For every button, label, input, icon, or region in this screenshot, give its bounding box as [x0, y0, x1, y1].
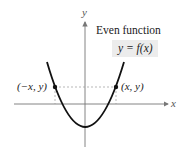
parabola-curve [47, 62, 124, 127]
even-function-figure: Even function y = f(x) (−x, y) (x, y) x … [0, 0, 186, 157]
y-axis-label: y [82, 7, 87, 18]
equation-label: y = f(x) [118, 43, 153, 55]
point-left [53, 85, 57, 89]
point-left-label: (−x, y) [17, 81, 47, 92]
x-axis-label: x [171, 98, 176, 109]
figure-title: Even function [96, 25, 161, 37]
point-right-label: (x, y) [121, 81, 144, 92]
point-right [114, 85, 118, 89]
